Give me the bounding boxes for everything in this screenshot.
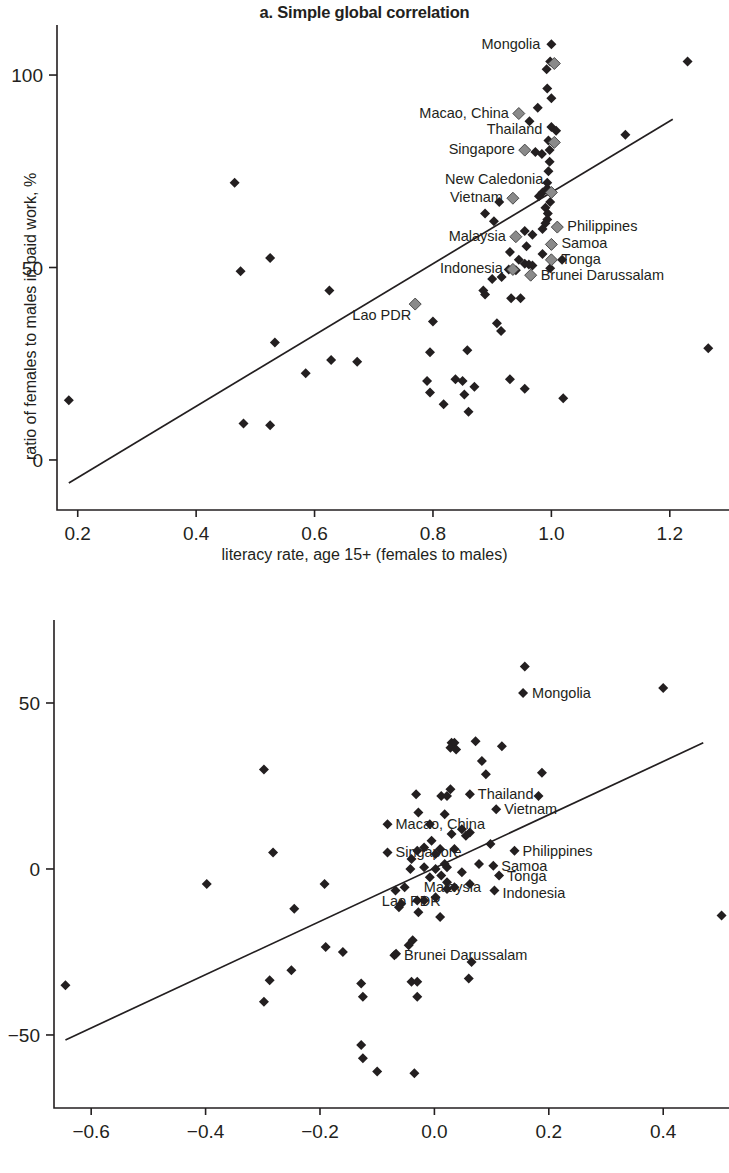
- data-point: [236, 266, 246, 276]
- data-point: [435, 912, 445, 922]
- highlighted-data-point: [551, 221, 563, 233]
- x-tick-label: 0.6: [301, 523, 327, 544]
- data-point: [321, 942, 331, 952]
- data-point: [458, 376, 468, 386]
- data-point-label: New Caledonia: [445, 171, 544, 187]
- data-point-label: Brunei Darussalam: [404, 947, 527, 963]
- highlighted-data-point: [488, 861, 498, 871]
- data-point: [326, 355, 336, 365]
- data-point: [289, 904, 299, 914]
- x-tick-label: 0.2: [536, 1121, 562, 1142]
- data-point: [320, 879, 330, 889]
- data-point: [463, 407, 473, 417]
- data-point: [543, 166, 553, 176]
- data-point: [459, 390, 469, 400]
- y-tick-label: −50: [8, 1025, 40, 1046]
- panel-a-simple-global-correlation: a. Simple global correlation 0.20.40.60.…: [0, 0, 729, 580]
- trend-line: [69, 119, 673, 483]
- data-point: [703, 343, 713, 353]
- data-point: [469, 382, 479, 392]
- data-point: [412, 992, 422, 1002]
- data-point: [425, 388, 435, 398]
- data-point: [464, 974, 474, 984]
- data-point: [683, 57, 693, 67]
- x-tick-label: 0.0: [421, 1121, 447, 1142]
- data-point: [428, 316, 438, 326]
- data-point-label: Indonesia: [502, 885, 566, 901]
- data-point-label: Mongolia: [481, 36, 541, 52]
- x-tick-label: 1.0: [538, 523, 564, 544]
- data-point-label: Vietnam: [450, 189, 503, 205]
- x-tick-label: 0.2: [65, 523, 91, 544]
- data-point: [60, 980, 70, 990]
- data-point: [411, 789, 421, 799]
- data-point: [546, 39, 556, 49]
- data-point: [520, 384, 530, 394]
- panel-a-plot: 0.20.40.60.81.01.2050100MongoliaMacao, C…: [0, 0, 729, 580]
- data-point: [352, 357, 362, 367]
- data-point: [516, 293, 526, 303]
- data-point: [358, 992, 368, 1002]
- data-point: [425, 347, 435, 357]
- data-point-label: Indonesia: [440, 260, 504, 276]
- data-point: [546, 93, 556, 103]
- panel-a-y-axis-title: ratio of females to males in paid work, …: [22, 173, 40, 460]
- data-point: [558, 393, 568, 403]
- data-point: [481, 769, 491, 779]
- data-point: [265, 420, 275, 430]
- data-point: [356, 1040, 366, 1050]
- data-point-label: Macao, China: [395, 816, 485, 832]
- data-point-label: Thailand: [487, 121, 543, 137]
- data-point-label: Samoa: [561, 235, 608, 251]
- data-point: [286, 965, 296, 975]
- data-point: [265, 253, 275, 263]
- data-point: [505, 374, 515, 384]
- data-point: [239, 418, 249, 428]
- y-tick-label: 50: [19, 693, 40, 714]
- data-point-label: Lao PDR: [352, 307, 411, 323]
- data-point-label: Tonga: [507, 868, 547, 884]
- highlighted-data-point: [465, 789, 475, 799]
- data-point: [265, 975, 275, 985]
- data-point: [268, 847, 278, 857]
- data-point: [506, 293, 516, 303]
- data-point: [270, 338, 280, 348]
- data-point: [439, 399, 449, 409]
- data-point-label: Mongolia: [532, 685, 592, 701]
- data-point: [505, 247, 515, 257]
- panel-a-x-axis-title: literacy rate, age 15+ (females to males…: [0, 546, 729, 564]
- data-point: [64, 395, 74, 405]
- x-tick-label: −0.4: [187, 1121, 225, 1142]
- data-point: [480, 209, 490, 219]
- data-point: [338, 947, 348, 957]
- data-point-label: Lao PDR: [382, 893, 441, 909]
- data-point: [356, 979, 366, 989]
- data-point: [533, 103, 543, 113]
- highlighted-data-point: [545, 254, 557, 266]
- highlighted-data-point: [510, 231, 522, 243]
- data-point: [422, 376, 432, 386]
- y-tick-label: 0: [29, 859, 40, 880]
- x-tick-label: 0.8: [420, 523, 446, 544]
- data-point-label: Macao, China: [419, 105, 509, 121]
- data-point: [534, 791, 544, 801]
- data-point: [259, 764, 269, 774]
- data-point: [717, 910, 727, 920]
- highlighted-data-point: [519, 144, 531, 156]
- x-tick-label: 0.4: [183, 523, 210, 544]
- data-point: [413, 907, 423, 917]
- data-point: [471, 736, 481, 746]
- panel-b-controlling-for-gdp-per-capita: b. Controlling for GDP per capitaa −0.6−…: [0, 580, 729, 1173]
- data-point: [457, 867, 467, 877]
- data-point: [542, 84, 552, 94]
- data-point: [477, 756, 487, 766]
- data-point: [324, 286, 334, 296]
- data-point: [537, 768, 547, 778]
- data-point-label: Philippines: [567, 218, 637, 234]
- highlighted-data-point: [382, 819, 392, 829]
- panel-b-axis-frame: [54, 620, 729, 1108]
- data-point: [462, 345, 472, 355]
- y-tick-label: 100: [11, 65, 43, 86]
- data-point: [230, 178, 240, 188]
- highlighted-data-point: [382, 847, 392, 857]
